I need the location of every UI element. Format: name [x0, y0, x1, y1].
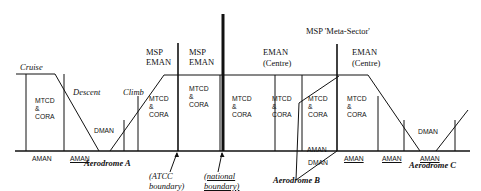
header-centre-1: (Centre) [263, 59, 291, 69]
phase-descent: Descent [73, 88, 100, 98]
mtcd-cora-block-4: MTCD&CORA [232, 95, 252, 119]
national-arrow-head [220, 152, 225, 157]
aman-label-4: AMAN [344, 155, 364, 163]
aman-label-1: AMAN [32, 155, 52, 163]
dman-label-c: DMAN [418, 128, 438, 136]
mtcd-cora-block-6: MTCD&CORA [308, 95, 328, 119]
mtcd-cora-block-1: MTCD&CORA [35, 97, 55, 121]
mtcd-cora-block-7: MTCD&CORA [347, 95, 367, 119]
aerodrome-b: Aerodrome B [273, 176, 320, 186]
header-eman-centre-1: EMAN [263, 48, 288, 58]
atcc-boundary-label: (ATCC boundary) [149, 172, 184, 191]
mtcd-cora-block-3: MTCD&CORA [189, 85, 209, 109]
flight-profile-a-descent [16, 74, 99, 151]
mtcd-cora-block-5: MTCD&CORA [272, 95, 292, 119]
airspace-tools-diagram: Cruise Descent Climb MSP EMAN MSP EMAN E… [0, 0, 481, 191]
header-eman-centre-2: EMAN [352, 48, 377, 58]
dman-label-b: DMAN [308, 159, 328, 167]
header-eman-2: EMAN [189, 58, 214, 68]
atcc-arrow-head [175, 152, 180, 157]
dman-label-a: DMAN [94, 127, 114, 135]
header-eman-1: EMAN [146, 58, 171, 68]
aerodrome-c: Aerodrome C [409, 161, 456, 171]
header-centre-2: (Centre) [352, 59, 380, 69]
phase-cruise: Cruise [20, 63, 43, 73]
phase-climb: Climb [123, 88, 144, 98]
mtcd-cora-block-2: MTCD&CORA [149, 95, 169, 119]
flight-profile-c-climb [436, 110, 468, 151]
aman-label-3: AMAN [307, 146, 327, 154]
aman-label-5: AMAN [382, 155, 402, 163]
header-meta-sector: MSP 'Meta-Sector' [306, 27, 370, 37]
national-boundary-label: (national boundary) [204, 172, 239, 191]
aerodrome-a: Aerodrome A [84, 159, 131, 169]
